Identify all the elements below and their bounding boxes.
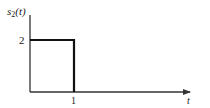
y-tick-label: 2: [19, 34, 25, 46]
pulse-signal: [30, 40, 74, 92]
signal-plot: s2(t) 2 1 t: [0, 0, 210, 108]
y-axis-title: s2(t): [7, 5, 26, 19]
x-tick-label: 1: [71, 95, 76, 106]
x-axis-label: t: [187, 95, 190, 106]
